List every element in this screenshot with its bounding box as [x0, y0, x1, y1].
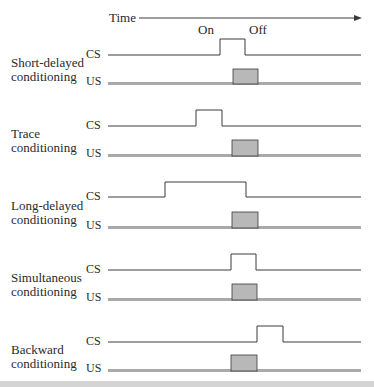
cs-label: CS	[86, 189, 101, 203]
arrow-head-icon	[354, 15, 362, 21]
row-title-line2: conditioning	[11, 356, 77, 371]
row-simultaneous: SimultaneousconditioningCSUS	[11, 254, 361, 304]
us-label: US	[86, 218, 101, 232]
row-trace: TraceconditioningCSUS	[11, 110, 361, 160]
row-title-line1: Long-delayed	[11, 198, 84, 213]
row-title-line1: Simultaneous	[11, 270, 82, 285]
cs-signal-trace	[108, 110, 361, 126]
us-label: US	[86, 74, 101, 88]
us-label: US	[86, 146, 101, 160]
cs-label: CS	[86, 118, 101, 132]
cs-label: CS	[86, 334, 101, 348]
row-title-line2: conditioning	[11, 212, 77, 227]
us-pulse	[232, 212, 258, 228]
us-label: US	[86, 361, 101, 375]
conditioning-timing-diagram: Time On Off Short-delayedconditioningCSU…	[0, 0, 374, 387]
us-pulse	[232, 284, 257, 300]
time-label: Time	[109, 10, 136, 25]
row-backward: BackwardconditioningCSUS	[11, 326, 361, 375]
cs-label: CS	[86, 47, 101, 61]
us-pulse	[233, 69, 258, 84]
cs-signal-trace	[108, 182, 361, 197]
row-short-delayed: Short-delayedconditioningCSUS	[11, 39, 361, 88]
row-title-line2: conditioning	[11, 69, 77, 84]
row-long-delayed: Long-delayedconditioningCSUS	[11, 182, 361, 232]
row-title-line2: conditioning	[11, 140, 77, 155]
bottom-band	[0, 381, 374, 387]
time-axis: Time	[109, 10, 362, 25]
us-label: US	[86, 290, 101, 304]
row-title-line1: Short-delayed	[11, 55, 84, 70]
cs-label: CS	[86, 262, 101, 276]
on-label: On	[198, 22, 214, 37]
row-title-line2: conditioning	[11, 284, 77, 299]
row-title-line1: Trace	[11, 126, 40, 141]
us-pulse	[231, 355, 257, 371]
cs-signal-trace	[108, 254, 361, 270]
us-pulse	[232, 140, 258, 156]
cs-signal-trace	[108, 326, 361, 342]
off-label: Off	[249, 22, 267, 37]
cs-signal-trace	[108, 39, 361, 55]
row-title-line1: Backward	[11, 342, 64, 357]
